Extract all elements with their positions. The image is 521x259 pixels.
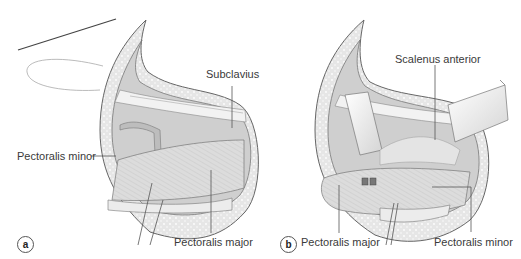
label-pectoralis-major-b: Pectoralis major: [301, 236, 380, 248]
label-subclavius: Subclavius: [206, 68, 259, 80]
label-pectoralis-minor-a: Pectoralis minor: [17, 150, 96, 162]
panel-tag-b: b: [280, 236, 297, 253]
label-pectoralis-minor-b: Pectoralis minor: [434, 236, 513, 248]
label-scalenus-anterior: Scalenus anterior: [395, 53, 481, 65]
panel-tag-a: a: [17, 236, 34, 253]
anatomy-illustration: [0, 0, 521, 259]
label-pectoralis-major-a: Pectoralis major: [174, 236, 253, 248]
panel-a-drawing: [18, 19, 258, 239]
